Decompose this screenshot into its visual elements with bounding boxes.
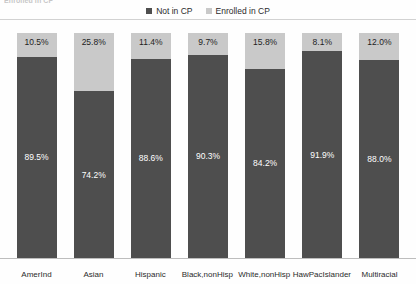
legend-entry-enrolled-in-cp[interactable]: Enrolled in CP [206, 6, 270, 16]
stacked-bar[interactable]: 10.5%89.5% [17, 33, 57, 258]
bar-value-label: 89.5% [25, 152, 49, 162]
bar-segment-not-in-cp[interactable]: 91.9% [302, 51, 342, 258]
bar-segment-enrolled-in-cp[interactable]: 8.1% [302, 33, 342, 51]
category-label: AmerInd [21, 270, 51, 279]
category-label: Multiracial [361, 270, 397, 279]
category-tick: Asian [65, 263, 122, 281]
bar-group: 9.7%90.3% [179, 33, 236, 258]
category-label: Hispanic [135, 270, 166, 279]
bar-segment-enrolled-in-cp[interactable]: 25.8% [74, 33, 114, 91]
bar-value-label: 88.6% [139, 153, 163, 163]
bar-group: 11.4%88.6% [122, 33, 179, 258]
top-divider [0, 19, 416, 20]
bar-segment-not-in-cp[interactable]: 90.3% [188, 55, 228, 258]
bar-value-label: 74.2% [82, 170, 106, 180]
legend-label-not-in-cp: Not in CP [156, 6, 192, 16]
chart-title-fragment: Enrolled in CP [4, 0, 53, 4]
bar-group: 12.0%88.0% [351, 33, 408, 258]
bar-value-label: 10.5% [25, 37, 49, 47]
bar-value-label: 84.2% [253, 158, 277, 168]
bar-segment-not-in-cp[interactable]: 88.0% [359, 60, 399, 258]
stacked-bar[interactable]: 8.1%91.9% [302, 33, 342, 258]
bar-value-label: 9.7% [198, 37, 217, 47]
bar-segment-enrolled-in-cp[interactable]: 10.5% [17, 33, 57, 57]
bar-group: 15.8%84.2% [237, 33, 294, 258]
bar-segment-enrolled-in-cp[interactable]: 12.0% [359, 33, 399, 60]
bar-group: 10.5%89.5% [8, 33, 65, 258]
bar-value-label: 15.8% [253, 37, 277, 47]
bar-value-label: 91.9% [310, 150, 334, 160]
bar-value-label: 25.8% [82, 37, 106, 47]
bar-value-label: 90.3% [196, 151, 220, 161]
bar-value-label: 88.0% [367, 154, 391, 164]
stacked-bar[interactable]: 9.7%90.3% [188, 33, 228, 258]
category-tick: AmerInd [8, 263, 65, 281]
plot-area: 10.5%89.5%25.8%74.2%11.4%88.6%9.7%90.3%1… [0, 33, 416, 258]
square-marker-icon [206, 8, 212, 14]
bar-value-label: 11.4% [139, 37, 162, 47]
category-label: Asian [83, 270, 103, 279]
bar-value-label: 8.1% [313, 37, 332, 47]
bar-segment-not-in-cp[interactable]: 74.2% [74, 91, 114, 258]
category-tick: Black,nonHisp [179, 263, 236, 281]
stacked-bar[interactable]: 12.0%88.0% [359, 33, 399, 258]
bar-segment-enrolled-in-cp[interactable]: 9.7% [188, 33, 228, 55]
stacked-bar[interactable]: 15.8%84.2% [245, 33, 285, 258]
square-marker-icon [146, 8, 152, 14]
bar-segment-not-in-cp[interactable]: 88.6% [131, 59, 171, 258]
bar-value-label: 12.0% [367, 37, 391, 47]
bar-group: 25.8%74.2% [65, 33, 122, 258]
bar-segment-enrolled-in-cp[interactable]: 15.8% [245, 33, 285, 69]
bar-group: 8.1%91.9% [294, 33, 351, 258]
chart-legend: Not in CP Enrolled in CP [0, 6, 416, 16]
stacked-bar[interactable]: 25.8%74.2% [74, 33, 114, 258]
category-label: Black,nonHisp [182, 270, 233, 279]
category-tick: White,nonHisp [236, 263, 293, 281]
legend-entry-not-in-cp[interactable]: Not in CP [146, 6, 192, 16]
stacked-bar[interactable]: 11.4%88.6% [131, 33, 171, 258]
category-tick: Multiracial [351, 263, 408, 281]
category-axis-labels: AmerIndAsianHispanicBlack,nonHispWhite,n… [0, 263, 416, 281]
category-axis-line [0, 258, 416, 259]
category-label: White,nonHisp [238, 270, 290, 279]
bar-segment-enrolled-in-cp[interactable]: 11.4% [131, 33, 171, 59]
category-tick: Hispanic [122, 263, 179, 281]
stacked-bar-chart: Enrolled in CP Not in CP Enrolled in CP … [0, 0, 416, 284]
legend-label-enrolled-in-cp: Enrolled in CP [216, 6, 270, 16]
bar-segment-not-in-cp[interactable]: 84.2% [245, 69, 285, 258]
bar-segment-not-in-cp[interactable]: 89.5% [17, 57, 57, 258]
category-tick: HawPacIslander [293, 263, 351, 281]
category-label: HawPacIslander [293, 270, 351, 279]
